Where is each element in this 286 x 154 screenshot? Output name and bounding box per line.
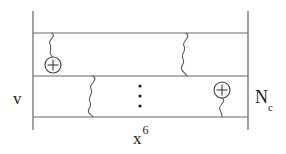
vertical-ellipsis-icon: [138, 84, 141, 107]
right-axis-label-base: N: [255, 87, 268, 107]
upper-left-circled-plus-icon: [45, 57, 61, 73]
bottom-label: x6: [133, 127, 148, 147]
lower-right-squiggle-icon: [219, 98, 223, 117]
bottom-label-superscript: 6: [143, 123, 149, 137]
upper-left-squiggle-icon: [49, 33, 53, 57]
lower-left-squiggle-icon: [88, 76, 95, 117]
lower-right-circled-plus-icon: [214, 82, 230, 98]
upper-right-squiggle-icon: [181, 33, 188, 76]
right-axis-label: Nc: [255, 88, 273, 110]
left-axis-label: v: [13, 90, 22, 107]
right-axis-label-subscript: c: [268, 101, 273, 113]
bottom-label-base: x: [133, 129, 142, 148]
figure-root: v Nc x6: [0, 0, 286, 154]
